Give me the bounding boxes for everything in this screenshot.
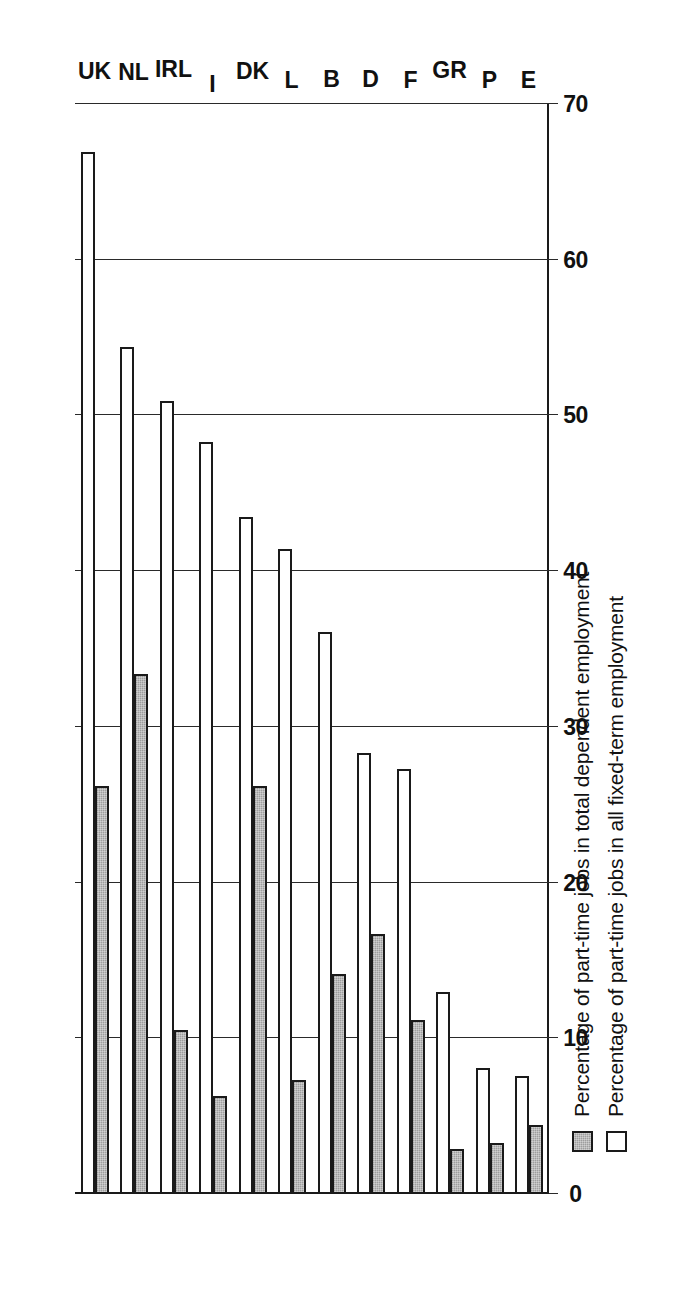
bar-dependent-uk <box>94 786 108 1194</box>
bar-fixed-term-f <box>396 769 410 1194</box>
bar-fixed-term-gr <box>436 992 450 1194</box>
bar-fixed-term-p <box>475 1068 489 1194</box>
category-label-b: B <box>322 66 339 93</box>
legend-label: Percentage of part-time jobs in all fixe… <box>604 596 628 1117</box>
axis-tick-label: 70 <box>563 91 588 118</box>
category-label-l: L <box>284 67 298 94</box>
category-label-d: D <box>362 66 379 93</box>
axis-tick <box>549 882 558 883</box>
legend-swatch-gray <box>571 1131 592 1152</box>
axis-tick <box>549 1193 558 1194</box>
bar-dependent-b <box>331 974 345 1194</box>
chart-legend: Percentage of part-time jobs in total de… <box>565 252 633 1152</box>
bar-fixed-term-irl <box>159 401 173 1194</box>
bar-fixed-term-d <box>357 753 371 1194</box>
axis-tick <box>549 1037 558 1038</box>
bar-fixed-term-l <box>278 549 292 1194</box>
axis-tick <box>549 726 558 727</box>
bar-fixed-term-uk <box>80 152 94 1194</box>
bar-dependent-p <box>489 1143 503 1194</box>
chart-plot-area: 010203040506070 EPGRFDBLDKIIRLNLUK <box>75 104 549 1194</box>
bar-dependent-i <box>213 1096 227 1194</box>
bar-fixed-term-i <box>199 442 213 1194</box>
category-label-dk: DK <box>235 58 268 85</box>
bar-dependent-e <box>529 1126 543 1195</box>
category-label-irl: IRL <box>154 56 191 83</box>
category-label-uk: UK <box>77 58 110 85</box>
bar-dependent-irl <box>173 1031 187 1195</box>
bar-dependent-d <box>371 934 385 1194</box>
gridline <box>75 570 549 571</box>
legend-item[interactable]: Percentage of part-time jobs in all fixe… <box>599 252 633 1152</box>
category-label-gr: GR <box>432 57 467 84</box>
rotated-chart-stage: 010203040506070 EPGRFDBLDKIIRLNLUK Perce… <box>57 42 617 1272</box>
bar-dependent-f <box>410 1020 424 1194</box>
bar-dependent-l <box>292 1080 306 1194</box>
category-label-e: E <box>521 67 536 94</box>
gridline <box>75 259 549 260</box>
gridline <box>75 103 549 104</box>
axis-tick <box>549 414 558 415</box>
category-label-nl: NL <box>118 59 149 86</box>
bar-fixed-term-dk <box>238 517 252 1194</box>
legend-swatch-white <box>605 1131 626 1152</box>
bar-fixed-term-nl <box>120 347 134 1194</box>
axis-tick <box>549 570 558 571</box>
legend-label: Percentage of part-time jobs in total de… <box>570 572 594 1117</box>
axis-tick <box>549 259 558 260</box>
gridline <box>75 414 549 415</box>
category-label-f: F <box>403 67 417 94</box>
axis-tick <box>549 103 558 104</box>
bar-dependent-dk <box>252 786 266 1194</box>
chart-page: 010203040506070 EPGRFDBLDKIIRLNLUK Perce… <box>0 0 673 1314</box>
bar-fixed-term-e <box>515 1076 529 1194</box>
bar-dependent-gr <box>450 1149 464 1194</box>
bar-dependent-nl <box>134 674 148 1194</box>
axis-tick-label: 0 <box>569 1181 581 1208</box>
category-label-i: I <box>209 71 215 98</box>
legend-item[interactable]: Percentage of part-time jobs in total de… <box>565 252 599 1152</box>
category-label-p: P <box>481 67 496 94</box>
bar-fixed-term-b <box>317 632 331 1194</box>
